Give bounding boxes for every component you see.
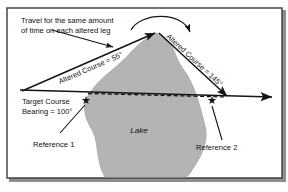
star-marker-reference-2: ★ bbox=[207, 94, 217, 106]
star-marker-reference-1: ★ bbox=[81, 94, 91, 106]
reference-1-label: Reference 1 bbox=[33, 140, 74, 149]
diagram-canvas: ★ ★ Travel for the same amount of time o… bbox=[0, 0, 288, 192]
target-course-label-line-2: Bearing = 100° bbox=[22, 107, 73, 116]
note-label-line-2: of time on each altered leg bbox=[21, 26, 111, 35]
note-label-line-1: Travel for the same amount bbox=[21, 16, 114, 25]
navigation-diagram-figure: ★ ★ Travel for the same amount of time o… bbox=[0, 0, 288, 192]
reference-2-label: Reference 2 bbox=[196, 143, 237, 152]
lake-label: Lake bbox=[130, 126, 148, 135]
target-course-label-line-1: Target Course bbox=[22, 97, 70, 106]
